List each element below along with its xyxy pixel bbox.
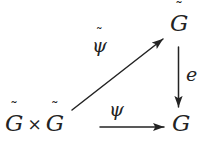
arrow-label-psi: ψ (109, 100, 124, 119)
psi-base: ψ (109, 98, 124, 120)
g-tilde-right: G˜ (46, 112, 64, 135)
g-tilde-left: G˜ (5, 112, 23, 135)
e-base: e (186, 63, 197, 85)
psi-tilde: ψ˜ (92, 36, 107, 55)
node-g-tilde-top: G˜ (170, 12, 188, 35)
g-tilde-left-base: G (5, 112, 23, 135)
psi-tilde-base: ψ (92, 36, 107, 55)
node-g-bottom: G (172, 112, 190, 135)
g-tilde-right-base: G (46, 112, 64, 135)
arrow-label-psi-tilde: ψ˜ (92, 36, 107, 55)
times-operator-icon: × (23, 114, 45, 134)
g-tilde-base: G (170, 12, 188, 35)
node-g-tilde-times-g-tilde: G˜×G˜ (5, 112, 64, 135)
g-tilde: G˜ (170, 12, 188, 35)
arrow-label-e: e (186, 65, 197, 84)
commutative-diagram: G˜×G˜ G˜ G ψ˜ ψ e (0, 0, 210, 152)
g-base: G (172, 110, 190, 136)
